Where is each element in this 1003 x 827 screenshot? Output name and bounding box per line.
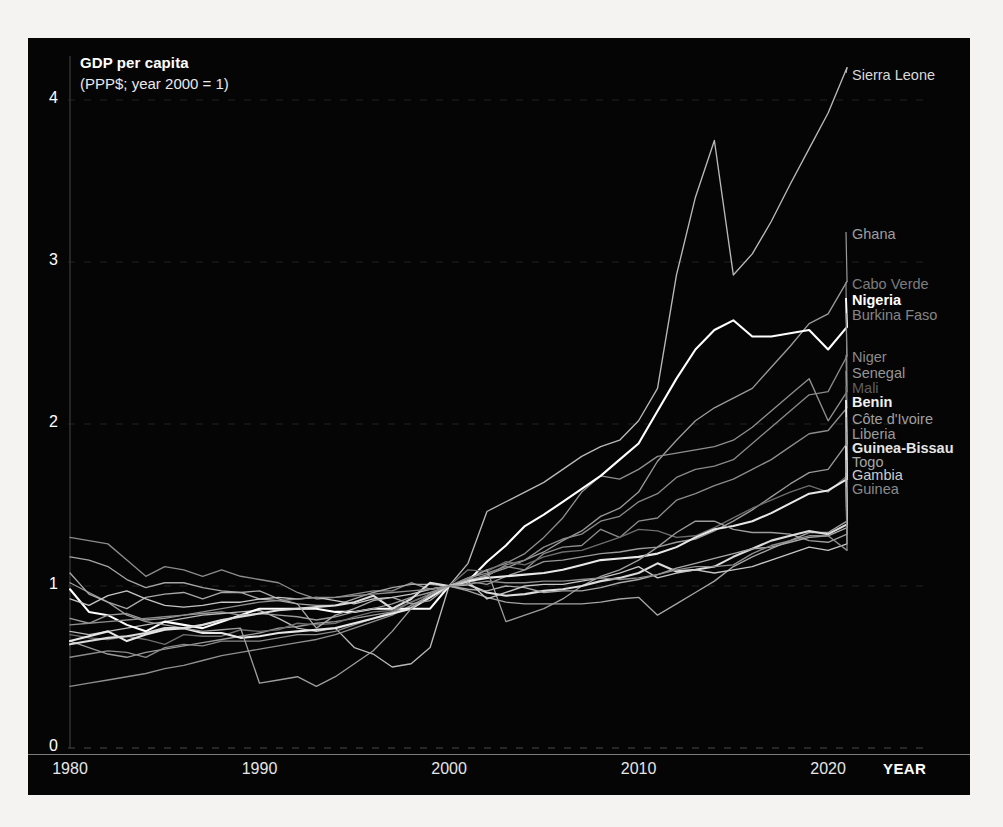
- series-label-senegal: Senegal: [852, 366, 905, 380]
- series-label-c-te-d-ivoire: Côte d'Ivoire: [852, 412, 933, 426]
- series-line: [70, 443, 847, 623]
- series-label-cabo-verde: Cabo Verde: [852, 277, 929, 291]
- series-line: [70, 521, 847, 686]
- series-label-mali: Mali: [852, 381, 879, 395]
- chart-panel: GDP per capita (PPP$; year 2000 = 1) 012…: [28, 38, 970, 795]
- series-line: [70, 379, 847, 687]
- line-chart-plot: [28, 38, 970, 795]
- x-axis-title: YEAR: [883, 760, 926, 777]
- series-label-guinea: Guinea: [852, 482, 899, 496]
- y-tick-label: 3: [32, 251, 58, 269]
- series-label-guinea-bissau: Guinea-Bissau: [852, 441, 954, 455]
- series-label-sierra-leone: Sierra Leone: [852, 68, 935, 82]
- x-tick-label: 2020: [783, 760, 873, 778]
- x-tick-label: 2000: [404, 760, 494, 778]
- y-tick-label: 2: [32, 413, 58, 431]
- chart-page: GDP per capita (PPP$; year 2000 = 1) 012…: [0, 0, 1003, 827]
- x-tick-label: 1990: [215, 760, 305, 778]
- series-line: [70, 356, 847, 657]
- gridlines: [68, 100, 928, 748]
- series-line: [70, 281, 847, 657]
- series-label-gambia: Gambia: [852, 468, 903, 482]
- x-tick-label: 1980: [28, 760, 115, 778]
- series-line: [70, 476, 847, 644]
- series-label-niger: Niger: [852, 350, 887, 364]
- series-lines: [70, 68, 847, 687]
- series-label-liberia: Liberia: [852, 427, 896, 441]
- series-label-nigeria: Nigeria: [852, 293, 901, 307]
- series-label-burkina-faso: Burkina Faso: [852, 308, 937, 322]
- series-line: [70, 536, 847, 625]
- series-label-ghana: Ghana: [852, 227, 896, 241]
- leader-lines: [846, 68, 847, 551]
- series-label-benin: Benin: [852, 395, 892, 409]
- series-line: [70, 479, 847, 641]
- axis-lines: [28, 56, 970, 755]
- y-tick-label: 1: [32, 575, 58, 593]
- series-line: [70, 521, 847, 615]
- y-tick-label: 0: [32, 737, 58, 755]
- x-tick-label: 2010: [594, 760, 684, 778]
- y-tick-label: 4: [32, 89, 58, 107]
